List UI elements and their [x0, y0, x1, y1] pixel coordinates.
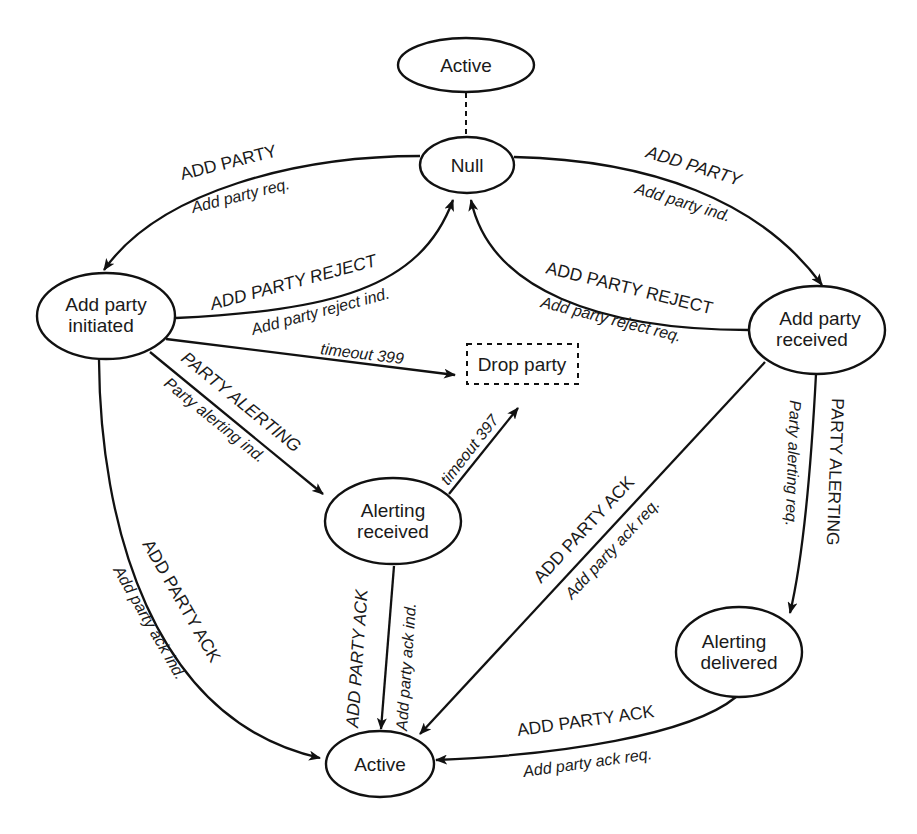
node-alerting-received-line2: received	[357, 521, 429, 542]
node-alerting-delivered: Alerting delivered	[676, 607, 802, 697]
node-null: Null	[420, 137, 514, 193]
node-active-bottom-label: Active	[354, 754, 406, 775]
node-add-party-received: Add party received	[749, 286, 885, 374]
node-add-party-initiated-line2: initiated	[68, 315, 134, 336]
edge-alerting-received-to-active-signal: ADD PARTY ACK	[342, 587, 372, 729]
node-add-party-initiated-line1: Add party	[65, 294, 147, 315]
node-add-party-received-line1: Add party	[779, 308, 861, 329]
edge-received-to-alerting-delivered-signal: PARTY ALERTING	[823, 398, 848, 546]
edge-alerting-received-to-active-primitive: Add party ack ind.	[393, 602, 419, 732]
node-active-top: Active	[398, 38, 534, 92]
node-alerting-delivered-line1: Alerting	[702, 631, 766, 652]
node-alerting-received-line1: Alerting	[361, 500, 425, 521]
edge-received-to-alerting-delivered-primitive: Party alerting req.	[783, 400, 804, 527]
edge-null-to-initiated-signal: ADD PARTY	[178, 141, 279, 184]
node-add-party-initiated: Add party initiated	[37, 273, 175, 359]
node-active-bottom: Active	[326, 731, 434, 797]
node-null-label: Null	[451, 155, 484, 176]
edge-alerting-delivered-to-active-primitive: Add party ack req.	[521, 745, 653, 780]
node-active-top-label: Active	[440, 55, 492, 76]
edge-initiated-to-active-signal: ADD PARTY ACK	[139, 536, 226, 666]
node-drop-party-label: Drop party	[478, 354, 567, 375]
edge-alerting-delivered-to-active-signal: ADD PARTY ACK	[516, 701, 656, 740]
edge-null-to-received-signal: ADD PARTY	[643, 141, 745, 190]
node-add-party-received-line2: received	[776, 329, 848, 350]
edge-initiated-to-alerting-received	[150, 352, 323, 494]
edge-alerting-received-to-drop-signal: timeout 397	[437, 411, 503, 488]
node-alerting-received: Alerting received	[325, 478, 461, 564]
node-alerting-delivered-line2: delivered	[700, 652, 777, 673]
edge-alerting-received-to-active	[381, 566, 394, 729]
state-diagram: ADD PARTY Add party req. ADD PARTY Add p…	[0, 0, 917, 834]
node-drop-party: Drop party	[467, 344, 578, 384]
